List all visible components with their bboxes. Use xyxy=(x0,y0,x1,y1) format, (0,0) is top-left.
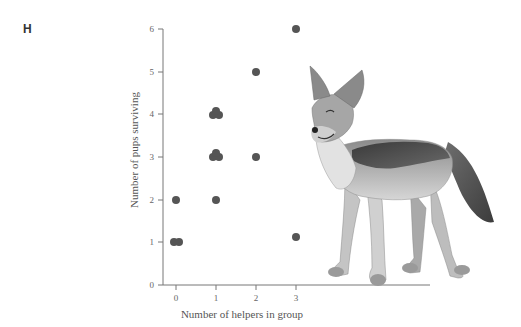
x-axis-title: Number of helpers in group xyxy=(181,308,304,320)
x-tick-labels: 0 1 2 3 xyxy=(174,293,299,303)
y-axis xyxy=(158,29,163,285)
svg-text:6: 6 xyxy=(150,24,155,34)
svg-text:0: 0 xyxy=(174,293,179,303)
svg-text:2: 2 xyxy=(150,195,155,205)
svg-text:1: 1 xyxy=(150,237,155,247)
svg-text:2: 2 xyxy=(254,293,259,303)
x-axis xyxy=(158,285,430,290)
svg-text:4: 4 xyxy=(150,109,155,119)
svg-text:3: 3 xyxy=(150,152,155,162)
svg-text:5: 5 xyxy=(150,67,155,77)
data-points xyxy=(170,25,300,246)
jackal-illustration xyxy=(310,66,494,286)
y-tick-labels: 0 1 2 3 4 5 6 xyxy=(150,24,155,290)
svg-text:0: 0 xyxy=(150,280,155,290)
y-axis-title: Number of pups surviving xyxy=(128,92,140,208)
svg-text:3: 3 xyxy=(294,293,299,303)
scatter-chart: 0 1 2 3 4 5 6 0 1 2 3 Number of helpers … xyxy=(0,0,521,327)
svg-text:1: 1 xyxy=(214,293,219,303)
